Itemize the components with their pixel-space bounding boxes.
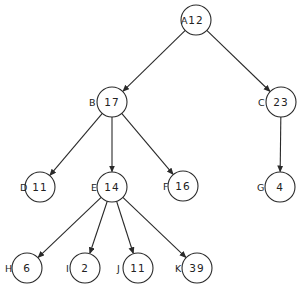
- tree-node-k: 39K: [175, 253, 212, 283]
- node-label: H: [5, 263, 12, 274]
- node-value: 12: [188, 14, 203, 26]
- nodes-layer: 12A17B23C11D14E16F4G6H2I11J39K: [5, 5, 296, 283]
- node-label: G: [257, 182, 264, 193]
- node-value: 2: [81, 262, 89, 274]
- tree-node-f: 16F: [163, 171, 198, 201]
- node-label: I: [66, 263, 69, 274]
- edge-b-f: [122, 113, 173, 174]
- tree-node-j: 11J: [116, 253, 153, 283]
- node-label: C: [258, 97, 265, 108]
- node-label: K: [175, 263, 182, 274]
- tree-node-h: 6H: [5, 253, 42, 283]
- tree-node-d: 11D: [20, 172, 55, 202]
- node-value: 14: [104, 181, 119, 193]
- edge-b-d: [50, 113, 102, 175]
- node-value: 23: [273, 96, 288, 108]
- edge-a-b: [123, 30, 185, 91]
- node-label: E: [91, 182, 97, 193]
- tree-node-e: 14E: [91, 172, 127, 202]
- node-label: J: [116, 263, 120, 274]
- edge-e-j: [117, 201, 134, 253]
- node-label: A: [181, 15, 188, 26]
- node-label: B: [89, 97, 96, 108]
- node-value: 6: [23, 262, 31, 274]
- node-label: F: [163, 181, 168, 192]
- edge-c-g: [280, 117, 281, 172]
- node-value: 17: [104, 96, 119, 108]
- tree-node-c: 23C: [258, 87, 296, 117]
- node-value: 4: [276, 181, 284, 193]
- node-value: 16: [175, 180, 190, 192]
- edge-e-i: [90, 201, 107, 253]
- node-value: 11: [130, 262, 145, 274]
- edge-a-c: [207, 30, 270, 91]
- edge-e-k: [123, 197, 186, 257]
- tree-node-a: 12A: [181, 5, 211, 35]
- tree-node-i: 2I: [66, 253, 100, 283]
- node-value: 11: [32, 181, 47, 193]
- tree-node-b: 17B: [89, 87, 127, 117]
- tree-diagram: 12A17B23C11D14E16F4G6H2I11J39K: [0, 0, 302, 291]
- edges-layer: [38, 30, 281, 257]
- node-value: 39: [189, 262, 204, 274]
- node-label: D: [20, 182, 27, 193]
- tree-node-g: 4G: [257, 172, 295, 202]
